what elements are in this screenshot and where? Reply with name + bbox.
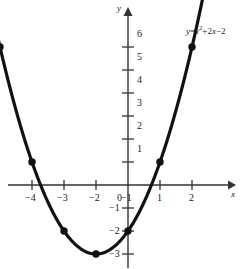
ytick-label-2: 2 xyxy=(137,121,142,131)
plotted-point xyxy=(28,158,35,165)
ytick-label-neg1: −1 xyxy=(109,203,120,213)
ytick-label-neg3: −3 xyxy=(109,249,120,259)
curve-overlay xyxy=(0,0,244,269)
plotted-point xyxy=(156,158,163,165)
xtick-label-neg1: −1 xyxy=(121,193,132,203)
plotted-point xyxy=(124,227,131,234)
xtick-label-neg2: −2 xyxy=(89,193,100,203)
x-axis-label: x xyxy=(231,190,235,199)
xtick-label-2: 2 xyxy=(189,193,194,203)
parabola-graph-figure: −4 −3 −2 −1 0 1 2 6 5 4 3 2 1 −1 −2 −3 y… xyxy=(0,0,244,269)
y-axis-label: y xyxy=(117,4,121,13)
plotted-point xyxy=(188,43,195,50)
ytick-label-5: 5 xyxy=(137,52,142,62)
ytick-label-4: 4 xyxy=(137,75,142,85)
xtick-label-neg4: −4 xyxy=(25,193,36,203)
equation-plus-term: +2 xyxy=(202,26,212,36)
ytick-label-1: 1 xyxy=(137,144,142,154)
ytick-label-neg2: −2 xyxy=(109,226,120,236)
plotted-point xyxy=(92,250,99,257)
plotted-point xyxy=(60,227,67,234)
equation-annotation: y=x2+2x−2 xyxy=(186,27,225,36)
ytick-label-6: 6 xyxy=(137,29,142,39)
xtick-label-1: 1 xyxy=(157,193,162,203)
equation-minus-term: −2 xyxy=(216,26,226,36)
ytick-label-3: 3 xyxy=(137,98,142,108)
xtick-label-neg3: −3 xyxy=(57,193,68,203)
